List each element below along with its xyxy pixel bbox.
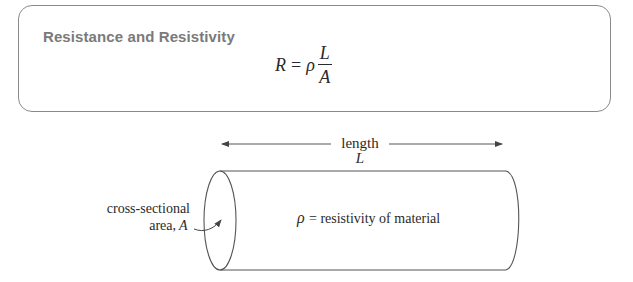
rho-symbol: ρ: [296, 209, 305, 227]
area-symbol: A: [178, 218, 188, 233]
rho-label: = resistivity of material: [309, 211, 440, 226]
length-label: length: [341, 135, 379, 151]
length-symbol: L: [355, 150, 364, 166]
cylinder-right-cap: [506, 171, 519, 270]
area-label-line2: area,: [149, 218, 176, 233]
area-label-line1: cross-sectional: [107, 201, 190, 216]
cylinder-diagram: length L cross-sectional area, A ρ = res…: [0, 0, 633, 282]
area-pointer-arrow: [194, 220, 221, 231]
